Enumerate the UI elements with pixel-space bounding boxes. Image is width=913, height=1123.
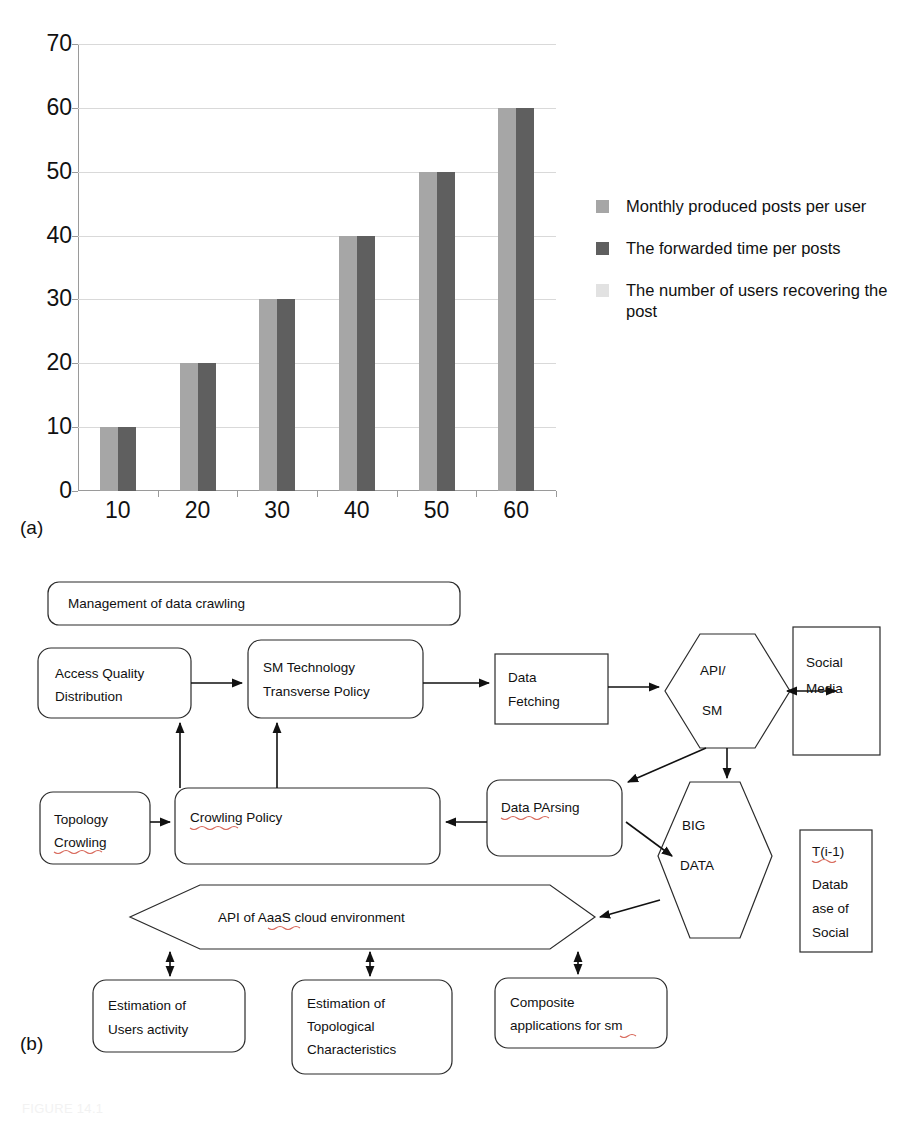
y-tick-mark	[72, 236, 78, 237]
y-axis-label: 50	[26, 160, 72, 183]
node-composite-line1: Composite	[510, 995, 575, 1010]
bar-group	[498, 44, 534, 491]
node-composite-applications: Composite applications for sm	[495, 978, 667, 1048]
chart-legend: Monthly produced posts per userThe forwa…	[596, 196, 906, 338]
node-access-quality-distribution: Access Quality Distribution	[38, 648, 191, 718]
node-est-users-line2: Users activity	[108, 1022, 189, 1037]
x-axis-label: 30	[242, 497, 312, 523]
y-axis-label: 70	[26, 32, 72, 55]
legend-item: Monthly produced posts per user	[596, 196, 906, 222]
node-topology-line2: Crowling	[54, 835, 107, 850]
node-estimation-topological-characteristics: Estimation of Topological Characteristic…	[292, 980, 452, 1074]
y-tick-mark	[72, 299, 78, 300]
gridline	[78, 172, 556, 173]
node-est-users-line1: Estimation of	[108, 998, 186, 1013]
x-axis-label: 40	[322, 497, 392, 523]
node-access-quality-line1: Access Quality	[55, 666, 145, 681]
gridline	[78, 427, 556, 428]
x-axis-label: 50	[402, 497, 472, 523]
node-crowling-policy-label: Crowling Policy	[190, 810, 283, 825]
y-axis-label: 60	[26, 96, 72, 119]
figure-page: 010203040506070 102030405060 Monthly pro…	[0, 0, 913, 1123]
node-database-line4: Social	[812, 925, 849, 940]
node-crowling-policy: Crowling Policy	[175, 788, 440, 864]
node-management-of-data-crawling: Management of data crawling	[48, 582, 460, 625]
node-sm-technology-transverse-policy: SM Technology Transverse Policy	[248, 640, 423, 718]
node-database-line1: T(i-1)	[812, 844, 844, 859]
node-est-topo-line3: Characteristics	[307, 1042, 397, 1057]
legend-label: The number of users recovering the post	[626, 280, 906, 322]
bar-chart-panel: 010203040506070 102030405060 Monthly pro…	[0, 0, 913, 570]
node-database-line2: Datab	[812, 877, 848, 892]
node-api-sm-line1: API/	[700, 663, 726, 678]
node-big-data-line1: BIG	[682, 818, 705, 833]
legend-label: The forwarded time per posts	[626, 238, 906, 259]
bar-group	[100, 44, 136, 491]
node-topology-line1: Topology	[54, 812, 108, 827]
bar-s1	[339, 236, 357, 491]
x-axis-label: 10	[83, 497, 153, 523]
y-axis-label: 40	[26, 224, 72, 247]
node-data-parsing-label: Data PArsing	[501, 800, 580, 815]
node-est-topo-line2: Topological	[307, 1019, 375, 1034]
bar-group	[180, 44, 216, 491]
node-big-data-hexagon: BIG DATA	[658, 782, 772, 938]
bar-s1	[498, 108, 516, 491]
y-axis-label: 30	[26, 287, 72, 310]
gridline	[78, 44, 556, 45]
node-composite-line2: applications for sm	[510, 1018, 623, 1033]
node-aaas-api-hexagon: API of AaaS cloud environment	[130, 885, 595, 949]
bar-s1	[180, 363, 198, 491]
bottom-caption: FIGURE 14.1	[22, 1101, 103, 1116]
node-access-quality-line2: Distribution	[55, 689, 123, 704]
y-tick-mark	[72, 427, 78, 428]
bar-s2	[118, 427, 136, 491]
y-tick-mark	[72, 108, 78, 109]
x-axis-label: 60	[481, 497, 551, 523]
node-est-topo-line1: Estimation of	[307, 996, 385, 1011]
legend-swatch-icon	[596, 200, 609, 213]
bar-s2	[437, 172, 455, 491]
node-topology-crowling: Topology Crowling	[40, 792, 150, 864]
x-tick-mark	[556, 491, 557, 497]
panel-a-label: (a)	[20, 517, 43, 539]
legend-item: The forwarded time per posts	[596, 238, 906, 264]
y-axis-label: 20	[26, 351, 72, 374]
gridline	[78, 236, 556, 237]
node-api-sm-hexagon: API/ SM	[665, 634, 790, 748]
bar-s2	[357, 236, 375, 491]
gridline	[78, 363, 556, 364]
node-data-fetching-line2: Fetching	[508, 694, 560, 709]
node-api-sm-line2: SM	[702, 703, 722, 718]
node-data-parsing: Data PArsing	[487, 780, 622, 856]
y-tick-mark	[72, 172, 78, 173]
node-data-fetching: Data Fetching	[495, 654, 608, 724]
bar-s1	[100, 427, 118, 491]
node-database-line3: ase of	[812, 901, 849, 916]
bar-group	[339, 44, 375, 491]
node-social-media-line1: Social	[806, 655, 843, 670]
node-aaas-api-label: API of AaaS cloud environment	[218, 910, 405, 925]
bar-s2	[516, 108, 534, 491]
y-tick-mark	[72, 491, 78, 492]
node-management-label: Management of data crawling	[68, 596, 245, 611]
y-axis-line	[78, 44, 79, 491]
flow-diagram-panel: Management of data crawling Access Quali…	[0, 560, 913, 1123]
legend-label: Monthly produced posts per user	[626, 196, 906, 217]
x-axis-tick-labels: 102030405060	[78, 497, 556, 527]
node-social-media-line2: Media	[806, 681, 843, 696]
bar-group	[259, 44, 295, 491]
node-database-of-social: T(i-1) Datab ase of Social	[800, 830, 872, 952]
y-tick-mark	[72, 363, 78, 364]
flow-diagram-svg: Management of data crawling Access Quali…	[0, 560, 913, 1080]
x-axis-label: 20	[163, 497, 233, 523]
node-sm-technology-line2: Transverse Policy	[263, 684, 370, 699]
bar-s1	[259, 299, 277, 491]
legend-item: The number of users recovering the post	[596, 280, 906, 322]
bar-s1	[419, 172, 437, 491]
panel-b-label: (b)	[20, 1033, 43, 1055]
bar-group	[419, 44, 455, 491]
node-big-data-line2: DATA	[680, 858, 714, 873]
legend-swatch-icon	[596, 284, 609, 297]
y-axis-label: 0	[26, 479, 72, 502]
